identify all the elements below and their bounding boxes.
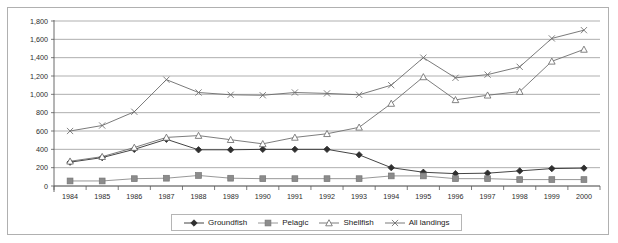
legend-item-pelagic[interactable]: Pelagic xyxy=(257,218,308,228)
legend-item-shellfish[interactable]: Shellfish xyxy=(318,218,373,228)
x-axis-tick-label: 1986 xyxy=(126,192,142,201)
x-axis-tick-label: 1988 xyxy=(191,192,207,201)
data-point-square-marker xyxy=(196,173,202,179)
data-point-square-marker xyxy=(388,173,394,179)
data-point-square-marker xyxy=(265,220,271,226)
data-point-diamond-marker xyxy=(191,219,197,225)
y-axis-tick-label: 1,400 xyxy=(30,53,48,62)
data-point-diamond-marker xyxy=(260,146,266,152)
legend-item-label: Shellfish xyxy=(343,218,373,228)
y-axis-tick-label: 1,800 xyxy=(30,17,48,26)
legend-item-label: Pelagic xyxy=(282,218,308,228)
line-chart: 02004006008001,0001,2001,4001,6001,80019… xyxy=(8,8,610,236)
x-axis-tick-label: 1987 xyxy=(158,192,174,201)
data-point-diamond-marker xyxy=(292,146,298,152)
data-point-cross-marker xyxy=(388,82,394,88)
chart-frame: 02004006008001,0001,2001,4001,6001,80019… xyxy=(7,7,609,235)
series-line-all-landings xyxy=(70,30,584,131)
data-point-square-marker xyxy=(453,176,459,182)
data-point-square-marker xyxy=(517,177,523,183)
legend-item-label: Groundfish xyxy=(208,218,247,228)
series-line-shellfish xyxy=(70,49,584,161)
data-point-triangle-marker xyxy=(581,46,588,52)
y-axis-tick-label: 800 xyxy=(36,108,48,117)
x-axis-tick-label: 2000 xyxy=(576,192,592,201)
data-point-cross-marker xyxy=(163,77,169,83)
legend-cross-icon xyxy=(384,218,406,228)
data-point-diamond-marker xyxy=(549,165,555,171)
legend-square-icon xyxy=(257,218,279,228)
data-point-square-marker xyxy=(324,176,330,182)
series-line-groundfish xyxy=(70,139,584,173)
data-point-diamond-marker xyxy=(517,168,523,174)
data-point-square-marker xyxy=(356,176,362,182)
x-axis-tick-label: 1993 xyxy=(351,192,367,201)
x-axis-tick-label: 1998 xyxy=(512,192,528,201)
x-axis-tick-label: 1989 xyxy=(223,192,239,201)
chart-legend: GroundfishPelagicShellfishAll landings xyxy=(171,214,462,231)
x-axis-tick-label: 1995 xyxy=(415,192,431,201)
legend-diamond-icon xyxy=(183,218,205,228)
data-point-diamond-marker xyxy=(356,152,362,158)
legend-item-all-landings[interactable]: All landings xyxy=(384,218,450,228)
data-point-triangle-marker xyxy=(356,124,363,130)
data-point-square-marker xyxy=(420,173,426,179)
data-point-square-marker xyxy=(164,175,170,181)
x-axis-tick-label: 1985 xyxy=(94,192,110,201)
data-point-cross-marker xyxy=(517,64,523,70)
data-point-square-marker xyxy=(549,177,555,183)
data-point-cross-marker xyxy=(131,109,137,115)
x-axis-tick-label: 1994 xyxy=(383,192,399,201)
legend-item-label: All landings xyxy=(409,218,450,228)
data-point-diamond-marker xyxy=(195,147,201,153)
data-point-diamond-marker xyxy=(227,147,233,153)
data-point-triangle-marker xyxy=(131,144,138,150)
x-axis-tick-label: 1997 xyxy=(480,192,496,201)
x-axis-tick-label: 1990 xyxy=(255,192,271,201)
y-axis-tick-label: 1,200 xyxy=(30,72,48,81)
y-axis-tick-label: 1,600 xyxy=(30,35,48,44)
legend-item-groundfish[interactable]: Groundfish xyxy=(183,218,247,228)
data-point-square-marker xyxy=(228,175,234,181)
data-point-cross-marker xyxy=(549,35,555,41)
x-axis-tick-label: 1999 xyxy=(544,192,560,201)
data-point-square-marker xyxy=(485,176,491,182)
data-point-triangle-marker xyxy=(549,58,556,64)
y-axis-tick-label: 600 xyxy=(36,127,48,136)
data-point-diamond-marker xyxy=(324,146,330,152)
data-point-diamond-marker xyxy=(388,164,394,170)
y-axis-tick-label: 0 xyxy=(44,182,48,191)
plot-area: 02004006008001,0001,2001,4001,6001,80019… xyxy=(8,8,610,236)
x-axis-tick-label: 1984 xyxy=(62,192,78,201)
legend-triangle-icon xyxy=(318,218,340,228)
x-axis-tick-label: 1996 xyxy=(447,192,463,201)
x-axis-tick-label: 1991 xyxy=(287,192,303,201)
y-axis-tick-label: 200 xyxy=(36,163,48,172)
y-axis-tick-label: 1,000 xyxy=(30,90,48,99)
data-point-square-marker xyxy=(67,178,73,184)
y-axis-tick-label: 400 xyxy=(36,145,48,154)
data-point-square-marker xyxy=(131,176,137,182)
data-point-square-marker xyxy=(99,178,105,184)
data-point-diamond-marker xyxy=(581,165,587,171)
data-point-cross-marker xyxy=(581,27,587,33)
data-point-square-marker xyxy=(260,176,266,182)
x-axis-tick-label: 1992 xyxy=(319,192,335,201)
data-point-square-marker xyxy=(292,176,298,182)
data-point-square-marker xyxy=(581,177,587,183)
data-point-triangle-marker xyxy=(420,74,427,80)
data-point-diamond-marker xyxy=(484,170,490,176)
